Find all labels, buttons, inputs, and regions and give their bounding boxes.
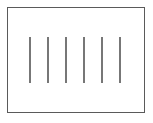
rectangle-border xyxy=(7,7,145,113)
figure-canvas xyxy=(0,0,153,123)
